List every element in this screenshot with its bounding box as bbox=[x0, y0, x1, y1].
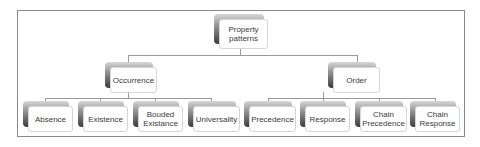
node-universality: Universality bbox=[188, 101, 240, 132]
node-precedence: Precedence bbox=[244, 101, 296, 132]
node-label: Precedence bbox=[249, 106, 296, 132]
node-label: Existence bbox=[83, 106, 128, 132]
node-label: Property patterns bbox=[219, 19, 268, 49]
node-label: Occurrence bbox=[110, 67, 157, 93]
node-order: Order bbox=[328, 62, 380, 93]
node-chain-precedence: Chain Precedence bbox=[355, 101, 407, 132]
connector-order-children-horizontal bbox=[268, 98, 435, 99]
connector-level1-horizontal bbox=[128, 55, 358, 56]
node-label: Order bbox=[333, 67, 380, 93]
node-occurrence: Occurrence bbox=[105, 62, 157, 93]
node-property-patterns: Property patterns bbox=[214, 14, 268, 49]
node-chain-response: Chain Response bbox=[410, 101, 460, 132]
node-label: Response bbox=[305, 106, 350, 132]
node-label: Chain Response bbox=[415, 106, 460, 132]
node-existence: Existence bbox=[78, 101, 128, 132]
node-label: Absence bbox=[28, 106, 73, 132]
node-absence: Absence bbox=[23, 101, 73, 132]
node-response: Response bbox=[300, 101, 350, 132]
connector-occurrence-children-horizontal bbox=[45, 98, 212, 99]
node-label: Universality bbox=[193, 106, 240, 132]
node-label: Bouded Existance bbox=[138, 106, 183, 132]
node-bounded-existence: Bouded Existance bbox=[133, 101, 183, 132]
node-label: Chain Precedence bbox=[360, 106, 407, 132]
